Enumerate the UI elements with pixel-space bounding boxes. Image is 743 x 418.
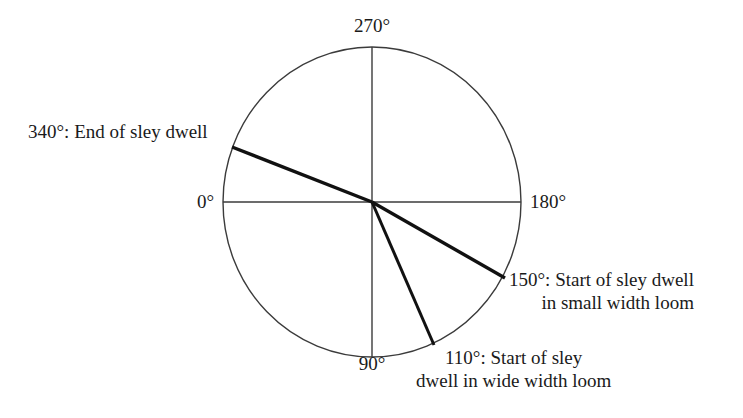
callout-340-end-of-sley-dwell: 340°: End of sley dwell (28, 120, 208, 143)
callout-150-start-sley-dwell-small-width-loom: 150°: Start of sley dwell in small width… (509, 268, 694, 314)
callout-340-line-1: 340°: End of sley dwell (28, 120, 208, 143)
radial-line-150 (372, 202, 505, 278)
axis-label-90: 90° (333, 352, 411, 375)
callout-110-line-1: 110°: Start of sley (416, 346, 611, 369)
callout-110-line-2: dwell in wide width loom (416, 369, 611, 392)
axis-label-180: 180° (530, 190, 590, 213)
radial-line-340 (232, 147, 372, 202)
callout-150-line-1: 150°: Start of sley dwell (509, 268, 694, 291)
axis-label-270: 270° (333, 14, 411, 37)
radial-line-110 (372, 202, 434, 345)
axis-label-0: 0° (170, 190, 214, 213)
callout-110-start-sley-dwell-wide-width-loom: 110°: Start of sley dwell in wide width … (416, 346, 611, 392)
diagram-canvas: 270° 0° 180° 90° 340°: End of sley dwell… (0, 0, 743, 418)
callout-150-line-2: in small width loom (509, 291, 694, 314)
